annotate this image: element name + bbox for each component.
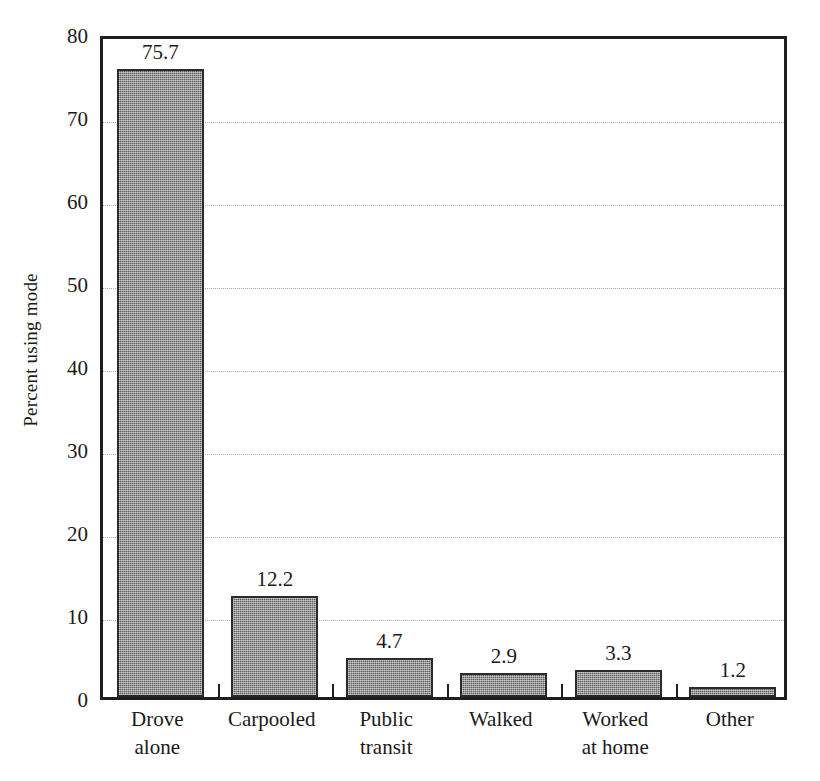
x-axis-category-label: Publictransit: [329, 706, 444, 761]
bar-value-label: 3.3: [561, 643, 676, 664]
bars-layer: 75.712.24.72.93.31.2: [103, 39, 784, 697]
y-axis-tick-labels: 01020304050607080: [46, 0, 94, 781]
x-axis-category-label: Workedat home: [558, 706, 673, 761]
x-axis-category-label: Carpooled: [215, 706, 330, 734]
bar-value-label: 75.7: [103, 42, 218, 63]
x-axis-category-label-line1: Drove: [131, 707, 183, 731]
bar[interactable]: [231, 596, 318, 697]
x-axis-tick-mark: [447, 684, 449, 697]
x-axis-category-label: Drovealone: [100, 706, 215, 761]
y-axis-tick-label: 70: [67, 109, 88, 130]
bar-value-label: 4.7: [332, 631, 447, 652]
bar[interactable]: [346, 658, 433, 697]
bar-chart-figure: Percent using mode 01020304050607080 75.…: [0, 0, 820, 781]
x-axis-category-label-line1: Carpooled: [228, 707, 315, 731]
x-axis-category-label-line2: transit: [329, 734, 444, 762]
x-axis-category-label-line1: Other: [706, 707, 754, 731]
bar-value-label: 12.2: [218, 569, 333, 590]
plot-area: 75.712.24.72.93.31.2: [100, 36, 787, 700]
plot-inner: 75.712.24.72.93.31.2: [103, 39, 784, 697]
y-axis-tick-label: 10: [67, 607, 88, 628]
x-axis-tick-mark: [332, 684, 334, 697]
bar[interactable]: [575, 670, 662, 697]
y-axis-tick-label: 50: [67, 275, 88, 296]
x-axis-category-label-line1: Worked: [582, 707, 648, 731]
y-axis-tick-label: 20: [67, 524, 88, 545]
bar[interactable]: [117, 69, 204, 697]
x-axis-category-label-line1: Public: [359, 707, 413, 731]
bar[interactable]: [689, 687, 776, 697]
bar-slot: 12.2: [218, 39, 333, 697]
x-axis-category-labels: DrovealoneCarpooledPublictransitWalkedWo…: [100, 706, 787, 781]
x-axis-category-label: Other: [673, 706, 788, 734]
x-axis-tick-mark: [218, 684, 220, 697]
y-axis-tick-label: 80: [67, 26, 88, 47]
bar-slot: 3.3: [561, 39, 676, 697]
y-axis-title: Percent using mode: [14, 0, 48, 700]
bar-slot: 75.7: [103, 39, 218, 697]
bar-slot: 4.7: [332, 39, 447, 697]
x-axis-category-label-line2: alone: [100, 734, 215, 762]
x-axis-tick-mark: [561, 684, 563, 697]
x-axis-category-label-line2: at home: [558, 734, 673, 762]
x-axis-tick-mark: [676, 684, 678, 697]
bar-slot: 2.9: [447, 39, 562, 697]
y-axis-title-text: Percent using mode: [20, 273, 42, 426]
y-axis-tick-label: 30: [67, 441, 88, 462]
bar[interactable]: [460, 673, 547, 697]
x-axis-category-label: Walked: [444, 706, 559, 734]
bar-slot: 1.2: [676, 39, 791, 697]
bar-value-label: 1.2: [676, 660, 791, 681]
bar-value-label: 2.9: [447, 646, 562, 667]
x-axis-category-label-line1: Walked: [469, 707, 533, 731]
y-axis-tick-label: 60: [67, 192, 88, 213]
y-axis-tick-label: 40: [67, 358, 88, 379]
y-axis-tick-label: 0: [78, 690, 89, 711]
